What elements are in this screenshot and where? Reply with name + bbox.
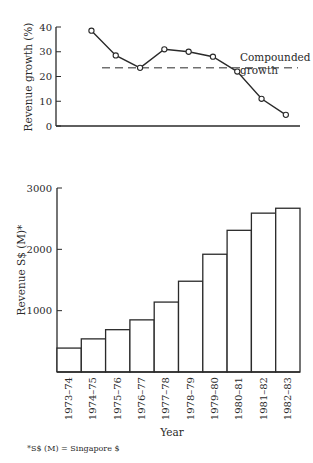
- revenue-bars: [57, 208, 300, 372]
- bottom-x-tick-label: 1975–76: [112, 377, 123, 420]
- revenue-bar: [179, 281, 203, 372]
- revenue-bar-chart: Revenue S$ (M)* 100020003000 1973–741974…: [15, 183, 300, 454]
- growth-point: [113, 53, 118, 58]
- growth-point: [162, 47, 167, 52]
- bottom-x-tick-label: 1982–83: [282, 377, 293, 420]
- figure: Revenue growth (%) 010203040 Compounded …: [0, 0, 313, 463]
- growth-point: [259, 96, 264, 101]
- bottom-x-tick-label: 1981–82: [258, 377, 269, 420]
- revenue-bar: [106, 330, 130, 372]
- growth-point: [137, 65, 142, 70]
- bottom-x-tick-label: 1973–74: [63, 377, 74, 420]
- bottom-x-tick-label: 1978–79: [185, 377, 196, 420]
- top-y-tick-label: 20: [39, 71, 52, 82]
- revenue-bar: [276, 208, 300, 372]
- revenue-bar: [130, 320, 154, 372]
- annotation-compounded: Compounded: [240, 51, 311, 63]
- revenue-bar: [154, 302, 178, 372]
- top-y-tick-label: 10: [39, 96, 52, 107]
- bottom-y-tick-label: 1000: [27, 305, 52, 316]
- bottom-y-axis: 100020003000: [27, 183, 62, 373]
- bottom-x-axis-title: Year: [159, 426, 184, 438]
- top-y-axis-title: Revenue growth (%): [22, 23, 34, 132]
- bottom-x-tick-label: 1974–75: [87, 377, 98, 420]
- growth-point: [89, 28, 94, 33]
- bottom-x-axis: 1973–741974–751975–761976–771977–781978–…: [57, 372, 300, 420]
- footnote: *S$ (M) = Singapore $: [27, 444, 120, 453]
- top-y-tick-label: 40: [39, 22, 52, 33]
- growth-point: [210, 54, 215, 59]
- top-y-tick-label: 30: [39, 46, 52, 57]
- top-y-axis: 010203040: [39, 22, 61, 132]
- revenue-bar: [81, 339, 105, 372]
- growth-line-chart: Revenue growth (%) 010203040 Compounded …: [22, 22, 311, 132]
- annotation-growth: growth: [240, 64, 278, 76]
- revenue-bar: [57, 348, 81, 372]
- bottom-y-tick-label: 2000: [27, 244, 52, 255]
- revenue-bar: [203, 254, 227, 372]
- bottom-x-tick-label: 1976–77: [136, 377, 147, 420]
- bottom-y-tick-label: 3000: [27, 183, 52, 194]
- growth-point: [283, 112, 288, 117]
- top-y-tick-label: 0: [46, 121, 52, 132]
- growth-point: [186, 49, 191, 54]
- bottom-x-tick-label: 1980–81: [233, 377, 244, 420]
- bottom-y-axis-title: Revenue S$ (M)*: [15, 224, 27, 315]
- revenue-bar: [251, 213, 275, 372]
- revenue-bar: [227, 230, 251, 372]
- bottom-x-tick-label: 1977–78: [160, 377, 171, 420]
- bottom-x-tick-label: 1979–80: [209, 377, 220, 420]
